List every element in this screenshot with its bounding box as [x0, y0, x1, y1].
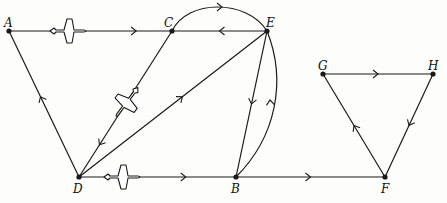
graph-canvas: [0, 0, 447, 203]
edge-D-E: [79, 31, 267, 177]
node-label-B: B: [231, 183, 240, 195]
node-D: [76, 174, 81, 179]
node-label-D: D: [73, 183, 83, 195]
flight-route-graph: ACEDBFGH: [0, 0, 447, 203]
node-label-F: F: [381, 183, 389, 195]
node-label-A: A: [4, 17, 13, 29]
node-F: [382, 174, 387, 179]
edge-B-E: [236, 31, 277, 177]
node-label-E: E: [266, 17, 275, 29]
node-B: [233, 174, 238, 179]
airplane-icon: [104, 165, 140, 189]
node-label-C: C: [164, 17, 173, 29]
edge-C-E: [172, 7, 267, 31]
node-label-G: G: [318, 60, 328, 72]
airplane-icon: [107, 80, 148, 123]
arrowhead-icon: [266, 100, 274, 106]
airplane-icon: [50, 19, 86, 43]
edge-D-A: [9, 31, 79, 177]
node-label-H: H: [428, 60, 438, 72]
